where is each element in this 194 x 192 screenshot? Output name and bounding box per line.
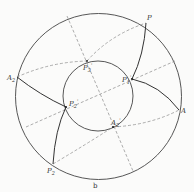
solid-arc-P-P1p [132,23,146,79]
label-A2: A2 [6,74,15,83]
label-A: A [180,107,186,115]
solid-arc-P1p-A [132,79,179,110]
inner-circle [63,61,133,131]
solid-arc-A2-P2p [17,77,66,107]
diagram-canvas: P A A2 P2 P1' P3' P2' A2' b [0,0,194,192]
label-A2-prime: A2' [110,117,121,128]
dashed-arc-P3p-P [87,23,146,61]
label-P: P [146,14,152,22]
label-P2-prime: P2' [68,98,78,109]
point-P3p-dot [86,60,88,62]
figure-caption: b [93,182,98,190]
label-P3-prime: P3' [82,62,92,73]
dashed-axis-1 [67,16,133,171]
solid-arc-P2p-P2 [53,107,66,164]
label-P2: P2 [46,167,55,176]
dashed-axis-2 [26,61,175,127]
dashed-arc-A2p-A [113,110,179,127]
label-P1-prime: P1' [121,74,131,85]
point-P2p-dot [65,106,67,108]
outer-circle [16,14,182,180]
dashed-arc-A2-P3p [17,61,87,77]
dashed-arc-P2-A2p [53,127,113,164]
geometric-diagram: P A A2 P2 P1' P3' P2' A2' b [0,0,194,192]
